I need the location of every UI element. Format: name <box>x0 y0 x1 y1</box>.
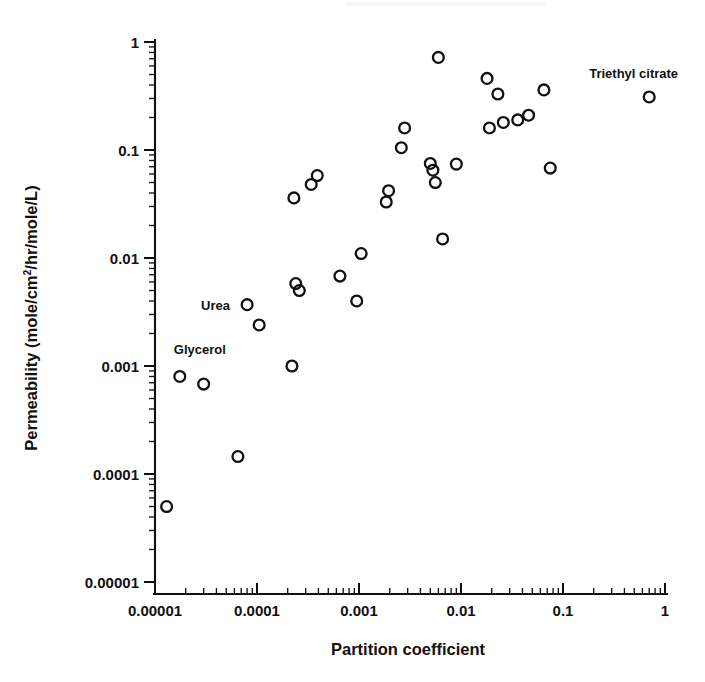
y-axis-ticks <box>144 42 155 582</box>
svg-text:Permeability (mole/cm2/hr/mole: Permeability (mole/cm2/hr/mole/L) <box>21 185 40 450</box>
data-point <box>545 163 556 174</box>
y-axis-title-base: Permeability (mole/cm <box>22 276 40 451</box>
scan-artifact <box>345 2 545 6</box>
y-tick-label: 0.01 <box>110 250 139 267</box>
data-point <box>433 52 444 63</box>
data-point <box>351 296 362 307</box>
data-point <box>335 271 346 282</box>
x-axis-ticks <box>155 583 665 594</box>
data-point <box>425 158 436 169</box>
point-annotation-label: Glycerol <box>174 342 226 357</box>
data-point <box>288 193 299 204</box>
data-point <box>482 73 493 84</box>
data-point <box>198 379 209 390</box>
y-tick-label: 1 <box>131 34 139 51</box>
data-point <box>484 123 495 134</box>
data-point <box>383 185 394 196</box>
data-point <box>254 320 265 331</box>
data-point <box>356 248 367 259</box>
data-point <box>396 142 407 153</box>
data-point <box>539 85 550 96</box>
point-annotations-layer: GlycerolUreaTriethyl citrate <box>174 66 678 358</box>
data-point <box>437 234 448 245</box>
x-tick-label: 0.001 <box>340 602 378 619</box>
data-point <box>312 170 323 181</box>
data-point <box>451 159 462 170</box>
x-axis-title: Partition coefficient <box>331 640 486 658</box>
scatter-plot-figure: 10.10.010.0010.00010.00001 0.000010.0001… <box>0 0 705 682</box>
x-tick-label: 0.01 <box>446 602 475 619</box>
data-point <box>644 92 655 103</box>
y-axis-title: Permeability (mole/cm2/hr/mole/L) <box>21 185 40 450</box>
data-point <box>161 501 172 512</box>
x-tick-label: 0.00001 <box>128 602 182 619</box>
data-point <box>381 197 392 208</box>
data-points-layer <box>161 52 654 512</box>
data-point <box>233 451 244 462</box>
y-tick-label: 0.0001 <box>93 466 139 483</box>
x-tick-label: 1 <box>661 602 669 619</box>
data-point <box>174 371 185 382</box>
data-point <box>287 361 298 372</box>
data-point <box>427 165 438 176</box>
data-point <box>523 110 534 121</box>
y-tick-label: 0.00001 <box>85 574 139 591</box>
data-point <box>430 177 441 188</box>
x-tick-label: 0.0001 <box>234 602 280 619</box>
data-point <box>242 299 253 310</box>
y-axis-tick-labels: 10.10.010.0010.00010.00001 <box>85 34 139 591</box>
data-point <box>492 89 503 100</box>
x-tick-label: 0.1 <box>553 602 574 619</box>
y-tick-label: 0.001 <box>101 358 139 375</box>
y-axis-title-tail: /hr/mole/L) <box>22 185 40 269</box>
y-tick-label: 0.1 <box>118 142 139 159</box>
data-point <box>498 117 509 128</box>
point-annotation-label: Urea <box>201 298 231 313</box>
permeability-vs-partition-coefficient-chart: 10.10.010.0010.00010.00001 0.000010.0001… <box>0 0 705 682</box>
data-point <box>512 114 523 125</box>
data-point <box>399 123 410 134</box>
x-axis-tick-labels: 0.000010.00010.0010.010.11 <box>128 602 669 619</box>
point-annotation-label: Triethyl citrate <box>589 66 678 81</box>
